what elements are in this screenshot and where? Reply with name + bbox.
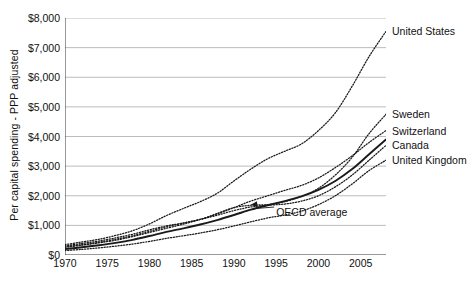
series-label: United Kingdom — [392, 154, 467, 166]
x-tick-label: 2000 — [307, 257, 330, 269]
x-tick-label: 1975 — [96, 257, 119, 269]
y-tick-label: $7,000 — [12, 42, 60, 54]
y-tick-label: $6,000 — [12, 71, 60, 83]
y-tick-label: $3,000 — [12, 160, 60, 172]
plot-area — [65, 18, 386, 255]
y-tick-label: $1,000 — [12, 219, 60, 231]
x-tick-label: 2005 — [349, 257, 372, 269]
x-tick-label: 1990 — [222, 257, 245, 269]
annotation-label: OECD average — [276, 206, 347, 218]
y-tick-label: $2,000 — [12, 190, 60, 202]
x-tick-label: 1980 — [138, 257, 161, 269]
plot-svg — [65, 18, 386, 255]
x-tick-label: 1985 — [180, 257, 203, 269]
series-label: Switzerland — [392, 125, 446, 137]
series-line — [65, 131, 386, 248]
y-tick-label: $4,000 — [12, 131, 60, 143]
series-label: Canada — [392, 139, 429, 151]
x-tick-label: 1995 — [264, 257, 287, 269]
series-label: United States — [392, 25, 455, 37]
chart-container: Per capital spending - PPP adjusted $0$1… — [0, 0, 475, 289]
y-axis-tick-labels: $0$1,000$2,000$3,000$4,000$5,000$6,000$7… — [8, 0, 60, 289]
x-tick-label: 1970 — [53, 257, 76, 269]
y-tick-label: $8,000 — [12, 12, 60, 24]
y-tick-label: $5,000 — [12, 101, 60, 113]
series-label: Sweden — [392, 108, 430, 120]
